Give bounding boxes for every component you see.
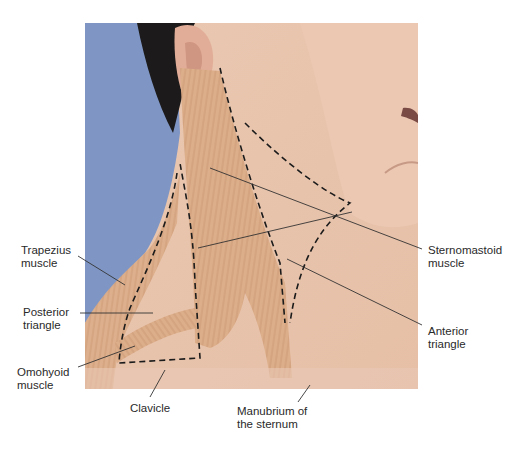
leader-lines [0,0,515,449]
anatomy-figure: Trapezius muscle Posterior triangle Omoh… [0,0,515,449]
clavicle-leader [150,370,165,397]
omohyoid-leader [78,346,135,367]
label-trapezius-muscle: Trapezius muscle [21,244,71,270]
trapezius-leader [78,256,125,285]
manubrium-leader [298,385,310,402]
label-clavicle: Clavicle [130,402,170,415]
label-manubrium: Manubrium of the sternum [237,405,307,431]
label-anterior-triangle: Anterior triangle [428,325,468,351]
sternomastoid-leader-a [210,168,422,249]
label-sternomastoid-muscle: Sternomastoid muscle [428,244,502,270]
sternomastoid-leader-b [198,212,352,248]
anterior-triangle-leader [287,259,422,325]
label-posterior-triangle: Posterior triangle [23,306,69,332]
label-omohyoid-muscle: Omohyoid muscle [17,366,69,392]
